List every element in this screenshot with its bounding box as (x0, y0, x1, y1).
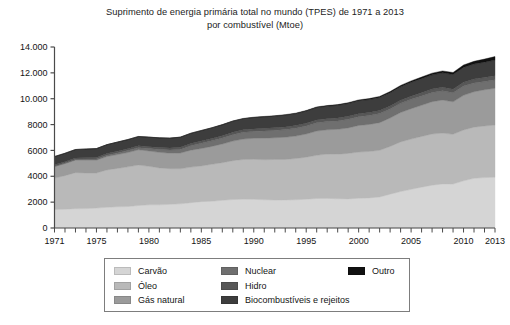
legend-item-label: Outro (372, 266, 395, 276)
x-tick-label: 2000 (349, 236, 369, 246)
legend-item[interactable]: Biocombustíveis e rejeitos (221, 293, 350, 308)
legend-item[interactable]: Óleo (114, 279, 185, 294)
legend-swatch-icon (348, 267, 365, 275)
chart-container: Suprimento de energia primária total no … (0, 0, 510, 325)
y-tick-label: 0 (42, 223, 47, 233)
y-tick-label: 12.000 (20, 68, 48, 78)
x-tick-label: 1985 (191, 236, 211, 246)
x-tick-label: 2005 (401, 236, 421, 246)
y-tick-label: 10.000 (20, 94, 48, 104)
legend-item-label: Nuclear (245, 266, 276, 276)
legend-swatch-icon (221, 296, 238, 304)
legend-swatch-icon (114, 267, 131, 275)
legend-item-label: Carvão (138, 266, 167, 276)
x-tick-label: 2010 (454, 236, 474, 246)
legend-item[interactable]: Nuclear (221, 264, 350, 279)
x-tick-label: 1980 (139, 236, 159, 246)
legend-item-label: Hidro (245, 281, 267, 291)
y-tick-label: 2000 (27, 197, 47, 207)
legend-swatch-icon (221, 282, 238, 290)
x-tick-label: 1995 (296, 236, 316, 246)
x-tick-label: 2013 (485, 236, 505, 246)
x-tick-label: 1971 (44, 236, 64, 246)
legend-swatch-icon (114, 296, 131, 304)
legend-swatch-icon (114, 282, 131, 290)
legend-item-label: Óleo (138, 281, 157, 291)
legend-item[interactable]: Outro (348, 264, 395, 279)
legend-swatch-icon (221, 267, 238, 275)
y-tick-label: 8000 (27, 120, 47, 130)
legend-item-label: Biocombustíveis e rejeitos (245, 295, 350, 305)
legend-column-2: NuclearHidroBiocombustíveis e rejeitos (221, 264, 350, 308)
legend-item[interactable]: Gás natural (114, 293, 185, 308)
y-tick-label: 4000 (27, 171, 47, 181)
legend-column-3: Outro (348, 264, 395, 279)
legend-item-label: Gás natural (138, 295, 185, 305)
y-tick-label: 14.000 (20, 42, 48, 52)
legend-item[interactable]: Carvão (114, 264, 185, 279)
x-tick-label: 1975 (86, 236, 106, 246)
legend-column-1: CarvãoÓleoGás natural (114, 264, 185, 308)
legend-item[interactable]: Hidro (221, 279, 350, 294)
x-tick-label: 1990 (244, 236, 264, 246)
chart-legend: CarvãoÓleoGás natural NuclearHidroBiocom… (104, 258, 410, 312)
y-tick-label: 6000 (27, 146, 47, 156)
